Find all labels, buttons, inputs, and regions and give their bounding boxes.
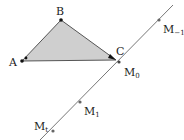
label-c: C (116, 45, 124, 58)
triangle-abc (22, 20, 116, 61)
point-m-minus-1 (157, 18, 160, 21)
label-m0: M0 (124, 66, 140, 80)
point-m0 (117, 60, 120, 63)
point-mt (51, 129, 54, 132)
point-m1 (78, 100, 81, 103)
point-a-secondary (25, 57, 28, 60)
point-b (59, 18, 63, 22)
label-m-minus-1: M−1 (163, 23, 184, 37)
label-b: B (56, 5, 64, 18)
geometry-diagram: B A C M0 M−1 M1 Mt (0, 0, 184, 140)
label-mt: Mt (34, 120, 48, 134)
point-a (20, 59, 24, 63)
label-m1: M1 (84, 105, 100, 119)
label-a: A (8, 56, 18, 69)
